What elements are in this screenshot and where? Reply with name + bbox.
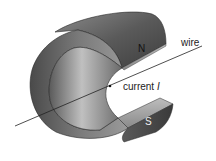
- current-point: [109, 85, 112, 88]
- magnet-inner-bore: [49, 47, 122, 130]
- current-symbol: I: [157, 81, 160, 92]
- south-pole-label: S: [145, 117, 152, 127]
- wire-label: wire: [181, 38, 199, 48]
- magnet-diagram: N S wire current I: [0, 0, 216, 161]
- north-pole-label: N: [138, 44, 145, 54]
- current-label-text: current: [123, 81, 157, 92]
- current-label: current I: [123, 82, 160, 92]
- magnet-illustration: [0, 0, 216, 161]
